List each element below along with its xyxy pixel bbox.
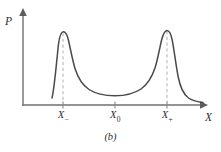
tick-label-x-minus-base: X: [58, 109, 64, 120]
tick-label-x-plus-base: X: [162, 109, 168, 120]
tick-label-x-zero-subscript: 0: [117, 115, 121, 124]
tick-label-x-zero-base: X: [110, 109, 116, 120]
y-axis-label: P: [5, 16, 12, 28]
plot-canvas: [0, 0, 221, 152]
tick-label-x-zero: X0: [110, 110, 120, 123]
probability-distribution-curve: [52, 30, 203, 102]
tick-label-x-minus-subscript: −: [64, 115, 68, 124]
figure-caption: (b): [0, 132, 221, 143]
tick-label-x-minus: X−: [58, 110, 69, 123]
x-axis-label: X: [205, 112, 212, 124]
y-axis-arrow-icon: [19, 8, 27, 16]
tick-label-x-plus-subscript: +: [168, 115, 172, 124]
tick-label-x-plus: X+: [162, 110, 173, 123]
figure-container: P X X− X0 X+ (b): [0, 0, 221, 152]
